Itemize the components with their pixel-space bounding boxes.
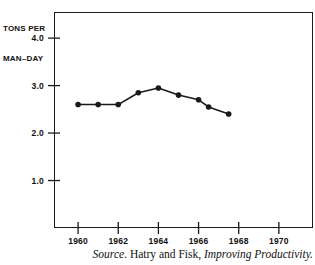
x-axis-ticks [78,222,279,234]
x-tick-label: 1962 [98,236,138,246]
data-point [156,85,162,91]
data-point [206,104,212,110]
source-work-title: Improving Productivity. [204,248,313,260]
series-line [78,88,229,114]
x-tick-label: 1966 [179,236,219,246]
data-point [75,102,81,108]
y-tick-label: 4.0 [14,33,44,43]
source-caption: Source. Hatry and Fisk, Improving Produc… [0,248,313,260]
data-point [196,97,202,103]
source-authors: Hatry and Fisk, [130,248,204,260]
x-tick-label: 1960 [58,236,98,246]
x-tick-label: 1968 [219,236,259,246]
y-tick-label: 2.0 [14,128,44,138]
data-point [176,92,182,98]
data-point [115,102,121,108]
y-axis-ticks [48,38,60,180]
x-tick-label: 1964 [138,236,178,246]
data-point [95,102,101,108]
y-tick-label: 1.0 [14,176,44,186]
plot-canvas [0,0,315,265]
x-tick-label: 1970 [259,236,299,246]
data-point [136,90,142,96]
source-label: Source [93,248,125,260]
data-point [226,111,232,117]
chart-figure: TONS PER MAN–DAY 1.02.03.04.0 1960196219… [0,0,315,265]
y-tick-label: 3.0 [14,81,44,91]
